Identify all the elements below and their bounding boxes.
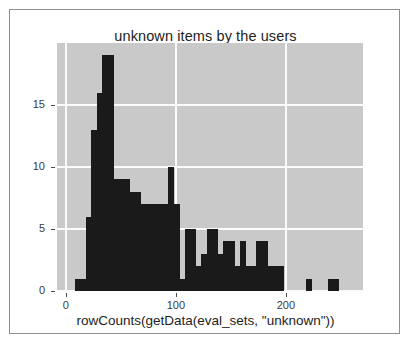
x-tick-label: 100: [156, 299, 196, 311]
histogram-bar: [306, 279, 312, 291]
y-tick-mark: [51, 167, 55, 168]
y-tick-mark: [51, 291, 55, 292]
figure-container: unknown items by the users count 051015 …: [9, 9, 400, 334]
y-axis-label: count: [0, 72, 1, 104]
y-tick-mark: [51, 229, 55, 230]
x-tick-mark: [66, 293, 67, 297]
chart-title: unknown items by the users: [10, 28, 401, 44]
histogram-bar: [333, 279, 339, 291]
plot-panel: [57, 43, 363, 291]
histogram-bar: [278, 266, 284, 291]
gridline-vertical: [285, 43, 287, 291]
x-tick-mark: [286, 293, 287, 297]
y-tick-label: 15: [19, 98, 45, 110]
gridline-vertical: [65, 43, 67, 291]
x-tick-label: 200: [266, 299, 306, 311]
x-axis-label: rowCounts(getData(eval_sets, "unknown")): [10, 313, 401, 328]
y-tick-label: 0: [19, 284, 45, 296]
x-tick-mark: [176, 293, 177, 297]
x-tick-label: 0: [46, 299, 86, 311]
y-tick-label: 5: [19, 222, 45, 234]
y-tick-mark: [51, 105, 55, 106]
y-tick-label: 10: [19, 160, 45, 172]
